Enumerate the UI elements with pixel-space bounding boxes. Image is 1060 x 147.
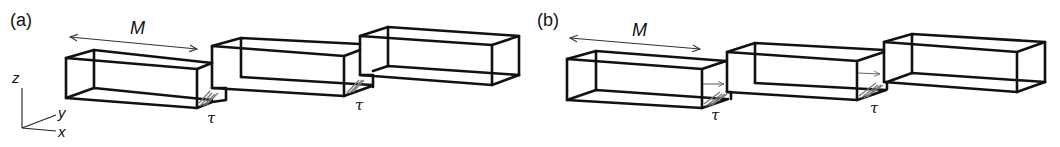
z-axis-label: z <box>11 69 20 86</box>
block-2 <box>727 43 886 100</box>
stress-label-2: τ <box>355 96 364 114</box>
block-3 <box>360 27 519 85</box>
block-1 <box>66 50 212 108</box>
length-label: M <box>632 20 647 40</box>
coordinate-axes: z y x <box>11 69 67 140</box>
block-2 <box>212 38 372 96</box>
length-arrow <box>70 37 197 49</box>
length-label: M <box>130 18 145 38</box>
block-1 <box>567 51 728 108</box>
y-axis-label: y <box>57 104 67 121</box>
x-axis-label: x <box>57 123 66 140</box>
panel-b-label: (b) <box>537 10 559 30</box>
panel-b: (b) M τ <box>537 10 1045 124</box>
panel-a-label: (a) <box>10 10 32 30</box>
figure-diagram: z y x (a) M τ <box>0 0 1060 147</box>
block-3 <box>884 34 1045 92</box>
shear-interface-1: τ <box>199 88 226 127</box>
panel-a: (a) M τ <box>10 10 519 127</box>
y-axis-line <box>22 115 56 128</box>
stress-label-1: τ <box>711 106 720 124</box>
x-axis-line <box>22 128 56 131</box>
stress-label-1: τ <box>207 109 216 127</box>
stress-label-2: τ <box>870 99 879 117</box>
normal-stress-arrow <box>858 73 880 74</box>
